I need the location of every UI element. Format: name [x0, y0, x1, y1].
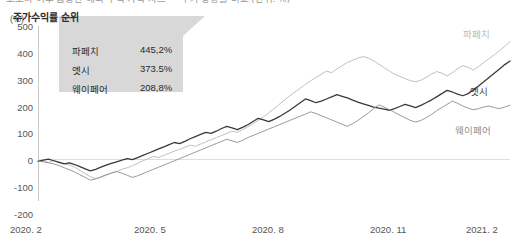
callout-row-value: 445,2%: [140, 44, 172, 55]
series-line-웨이페어: [38, 101, 510, 180]
callout-heading: 주가수익률 순위: [13, 9, 79, 24]
callout-row-name: 엣시: [72, 63, 90, 77]
series-label-엣시: 엣시: [470, 84, 488, 98]
callout-row-name: 웨이페어: [72, 82, 108, 96]
stock-return-line-chart: 코로나 이후 급등한 해외 주식 가격 차트 — 주가 상승률 비교 (단위: …: [0, 0, 518, 241]
callout-row-value: 373.5%: [140, 63, 172, 74]
callout-row-name: 파페치: [72, 44, 99, 58]
callout-tail: [183, 16, 205, 36]
series-label-파페치: 파페치: [463, 27, 490, 41]
callout-row-value: 208,8%: [140, 82, 172, 93]
series-label-웨이페어: 웨이페어: [455, 123, 491, 137]
